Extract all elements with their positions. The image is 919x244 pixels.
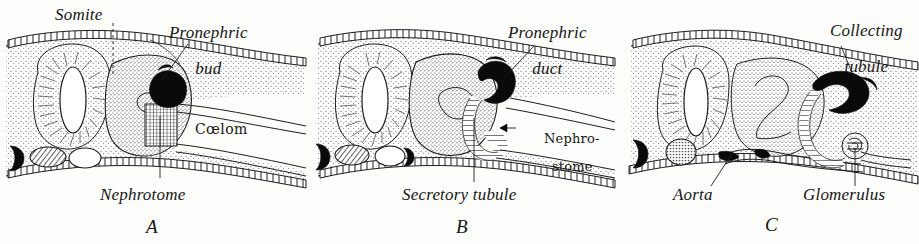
label-coelom: Cœlom — [195, 121, 248, 138]
label-secretory-tubule: Secretory tubule — [402, 186, 516, 203]
label-collecting-tubule: Collecting tubule — [795, 4, 911, 94]
label-pronephric-bud-line1: Pronephric — [169, 23, 248, 42]
label-pronephric-duct-line2: duct — [532, 59, 562, 78]
label-nephrotome: Nephrotome — [100, 186, 185, 203]
label-nephrostome-line1: Nephro- — [544, 131, 600, 146]
label-aorta: Aorta — [673, 186, 713, 203]
panel-b: Pronephric duct Nephro- stome Secretory … — [310, 0, 620, 244]
label-pronephric-bud-line2: bud — [195, 59, 221, 78]
label-nephrostome-line2: stome — [552, 160, 593, 174]
panel-c: Collecting tubule Aorta Glomerulus C — [615, 0, 919, 244]
label-pronephric-duct: Pronephric duct — [474, 6, 594, 96]
label-collecting-tubule-line2: tubule — [845, 57, 889, 76]
label-nephrostome: Nephro- stome — [518, 118, 600, 188]
label-glomerulus: Glomerulus — [803, 186, 885, 203]
label-collecting-tubule-line1: Collecting — [830, 21, 903, 40]
label-pronephric-bud: Pronephric bud — [140, 6, 250, 96]
pronephros-development-figure: Somite Pronephric bud Cœlom Nephrotome A — [0, 0, 919, 244]
panel-a: Somite Pronephric bud Cœlom Nephrotome A — [0, 0, 310, 244]
plate-label-c: C — [765, 214, 778, 236]
plate-label-b: B — [456, 216, 468, 238]
plate-label-a: A — [146, 216, 158, 238]
label-somite: Somite — [55, 6, 102, 23]
label-pronephric-duct-line1: Pronephric — [508, 23, 587, 42]
